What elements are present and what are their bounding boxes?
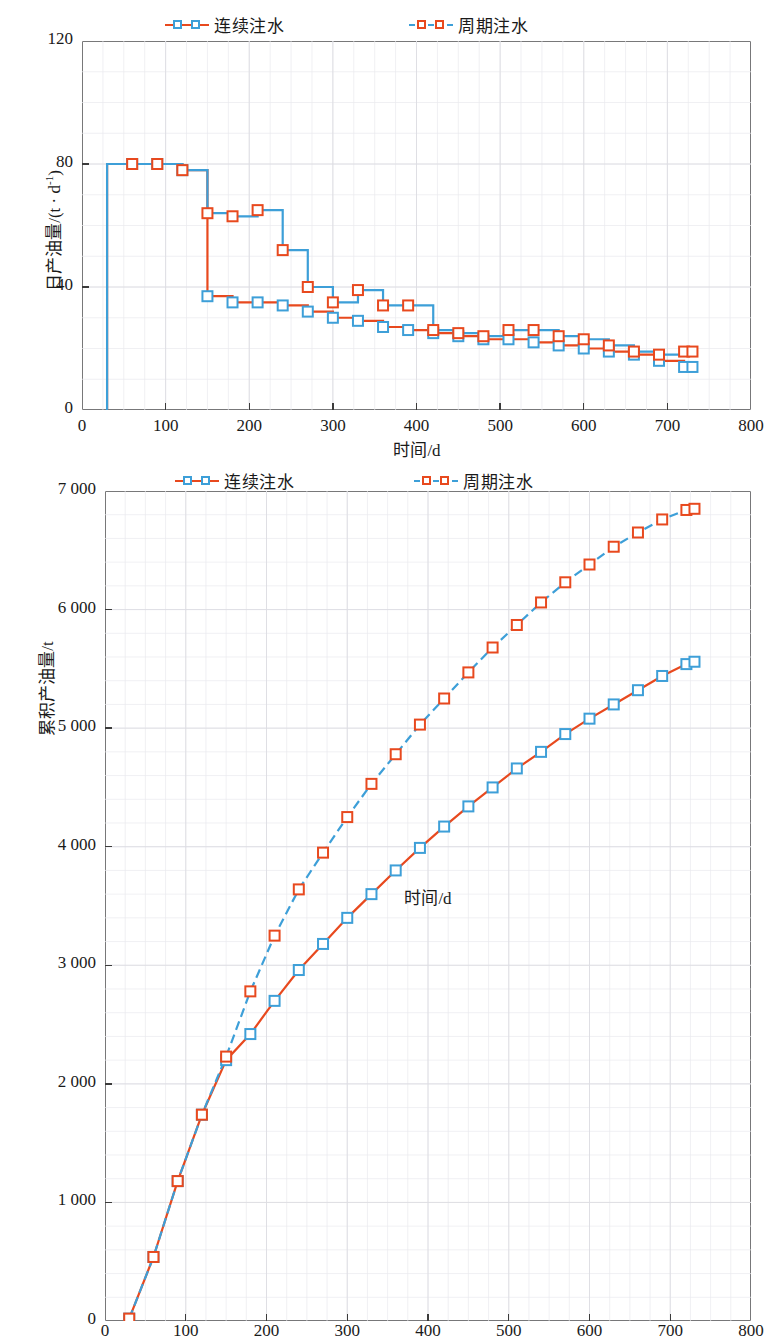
ylabel-daily: 日产油量/(t · d-1) [40, 131, 65, 331]
xtick-label-undefined-1: 100 [156, 1321, 216, 1340]
ytick-label-undefined-4: 4 000 [30, 835, 96, 855]
ytick-mark [105, 965, 112, 966]
xtick-label-undefined-7: 700 [640, 1321, 700, 1340]
xtick-label-undefined-7: 700 [637, 416, 697, 436]
ylabel-daily-main: 日产油量/(t · d [45, 185, 64, 291]
ytick-label-undefined-2: 2 000 [30, 1072, 96, 1092]
plot-area-cumulative: 01 0002 0003 0004 0005 0006 0007 0000100… [0, 455, 769, 908]
xtick-label-undefined-4: 400 [387, 416, 447, 436]
xlabel-cumulative-text: 时间/d [404, 889, 451, 908]
xtick-label-undefined-2: 200 [219, 416, 279, 436]
ytick-mark [105, 1202, 112, 1203]
ytick-label-undefined-7: 7 000 [30, 479, 96, 499]
ytick-label-undefined-3: 3 000 [30, 953, 96, 973]
xtick-label-undefined-5: 500 [470, 416, 530, 436]
plot-svg-daily [82, 41, 751, 410]
xtick-mark [332, 403, 333, 410]
ytick-label-undefined-0: 0 [7, 398, 73, 418]
ylabel-daily-tail: ) [45, 170, 64, 176]
ylabel-daily-superscript: -1 [43, 176, 55, 185]
xtick-label-undefined-1: 100 [136, 416, 196, 436]
ytick-mark [82, 286, 89, 287]
xtick-label-undefined-2: 200 [237, 1321, 297, 1340]
xtick-mark [249, 403, 250, 410]
xtick-label-undefined-6: 600 [560, 1321, 620, 1340]
plot-area-daily: 040801200100200300400500600700800 [0, 0, 769, 455]
xtick-label-undefined-4: 400 [398, 1321, 458, 1340]
ytick-mark [105, 727, 112, 728]
xtick-label-undefined-0: 0 [52, 416, 112, 436]
xtick-mark [266, 1314, 267, 1321]
ylabel-cumulative: 累积产油量/t [33, 609, 58, 769]
xtick-label-undefined-6: 600 [554, 416, 614, 436]
xtick-label-undefined-3: 300 [303, 416, 363, 436]
ytick-label-undefined-1: 1 000 [30, 1190, 96, 1210]
ytick-mark [105, 609, 112, 610]
xtick-mark [583, 403, 584, 410]
ytick-mark [105, 1083, 112, 1084]
xtick-label-undefined-0: 0 [75, 1321, 135, 1340]
xtick-mark [427, 1314, 428, 1321]
xtick-mark [499, 403, 500, 410]
xtick-mark [416, 403, 417, 410]
xlabel-cumulative: 时间/d [368, 884, 488, 909]
xtick-label-undefined-3: 300 [317, 1321, 377, 1340]
ytick-mark [82, 163, 89, 164]
xtick-label-undefined-5: 500 [479, 1321, 539, 1340]
xtick-mark [667, 403, 668, 410]
xtick-mark [508, 1314, 509, 1321]
xtick-mark [589, 1314, 590, 1321]
ylabel-cumulative-text: 累积产油量/t [38, 641, 57, 735]
xtick-mark [165, 403, 166, 410]
xtick-label-undefined-8: 800 [721, 416, 769, 436]
ytick-mark [105, 846, 112, 847]
xtick-mark [185, 1314, 186, 1321]
xtick-label-undefined-8: 800 [721, 1321, 769, 1340]
xtick-mark [347, 1314, 348, 1321]
ytick-label-undefined-3: 120 [7, 29, 73, 49]
xtick-mark [670, 1314, 671, 1321]
